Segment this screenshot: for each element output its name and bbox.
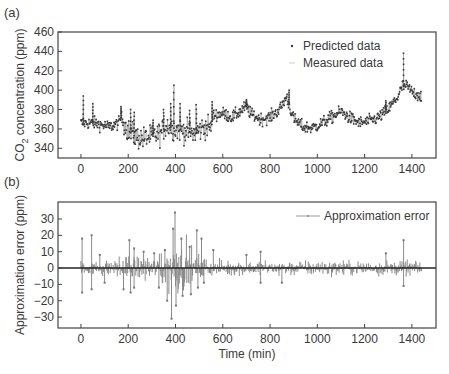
predicted-point	[225, 115, 227, 117]
predicted-point	[130, 132, 132, 134]
predicted-point	[179, 116, 181, 118]
predicted-point	[347, 121, 349, 123]
predicted-point	[170, 115, 172, 117]
predicted-point	[170, 129, 172, 131]
predicted-point	[390, 106, 392, 108]
predicted-point	[273, 117, 275, 119]
error-peak-marker	[164, 249, 166, 251]
predicted-point	[335, 116, 337, 118]
predicted-point	[159, 125, 161, 127]
predicted-point	[121, 115, 123, 117]
predicted-point	[408, 86, 410, 88]
predicted-point	[233, 109, 235, 111]
predicted-point	[165, 135, 167, 137]
predicted-point	[414, 88, 416, 90]
predicted-point	[148, 135, 150, 137]
predicted-point	[259, 119, 261, 121]
predicted-point	[109, 122, 111, 124]
predicted-point	[155, 140, 157, 142]
predicted-point	[135, 129, 137, 131]
y-tick-label: −30	[34, 310, 55, 324]
predicted-point	[417, 100, 419, 102]
predicted-point	[301, 118, 303, 120]
predicted-point	[286, 94, 288, 96]
x-tick-label: 1200	[351, 332, 378, 346]
predicted-point	[361, 124, 363, 126]
predicted-point	[87, 123, 89, 125]
predicted-point	[207, 124, 209, 126]
error-peak-marker	[133, 247, 135, 249]
predicted-point	[121, 122, 123, 124]
predicted-point	[272, 111, 274, 113]
predicted-point	[83, 120, 85, 122]
predicted-point	[173, 85, 175, 87]
predicted-point	[206, 135, 208, 137]
predicted-point	[279, 104, 281, 106]
error-peak-marker	[104, 282, 106, 284]
predicted-point	[394, 97, 396, 99]
x-tick-label: 400	[165, 162, 185, 176]
predicted-point	[278, 109, 280, 111]
predicted-point	[130, 113, 132, 115]
predicted-point	[179, 139, 181, 141]
predicted-point	[302, 129, 304, 131]
predicted-point	[116, 119, 118, 121]
predicted-point	[398, 93, 400, 95]
predicted-point	[247, 104, 249, 106]
predicted-point	[128, 120, 130, 122]
predicted-point	[92, 116, 94, 118]
error-peak-marker	[171, 318, 173, 320]
predicted-point	[139, 144, 141, 146]
predicted-point	[178, 125, 180, 127]
predicted-point	[99, 127, 101, 129]
predicted-point	[122, 125, 124, 127]
predicted-point	[137, 140, 139, 142]
predicted-point	[240, 108, 242, 110]
predicted-point	[327, 121, 329, 123]
predicted-point	[116, 121, 118, 123]
predicted-point	[191, 128, 193, 130]
predicted-point	[159, 147, 161, 149]
predicted-point	[288, 101, 290, 103]
predicted-point	[196, 109, 198, 111]
predicted-point	[112, 129, 114, 131]
predicted-point	[251, 108, 253, 110]
predicted-point	[92, 103, 94, 105]
predicted-point	[204, 124, 206, 126]
predicted-point	[209, 127, 211, 129]
predicted-point	[196, 122, 198, 124]
y-tick-label: 340	[34, 141, 54, 155]
error-peak-marker	[403, 239, 405, 241]
predicted-point	[140, 130, 142, 132]
predicted-point	[133, 116, 135, 118]
predicted-point	[330, 118, 332, 120]
predicted-point	[163, 115, 165, 117]
predicted-point	[238, 112, 240, 114]
predicted-point	[374, 115, 376, 117]
predicted-point	[133, 123, 135, 125]
predicted-point	[350, 122, 352, 124]
predicted-point	[292, 111, 294, 113]
predicted-point	[133, 119, 135, 121]
predicted-point	[253, 110, 255, 112]
predicted-point	[210, 122, 212, 124]
predicted-point	[205, 125, 207, 127]
predicted-point	[254, 119, 256, 121]
predicted-point	[120, 109, 122, 111]
predicted-point	[132, 121, 134, 123]
predicted-point	[94, 115, 96, 117]
predicted-point	[183, 145, 185, 147]
predicted-point	[154, 128, 156, 130]
predicted-point	[244, 110, 246, 112]
predicted-point	[319, 123, 321, 125]
predicted-point	[318, 127, 320, 129]
x-axis-label: Time (min)	[219, 347, 276, 361]
predicted-point	[127, 125, 129, 127]
predicted-point	[189, 110, 191, 112]
predicted-point	[323, 115, 325, 117]
predicted-point	[185, 130, 187, 132]
error-peak-marker	[190, 293, 192, 295]
predicted-point	[149, 141, 151, 143]
predicted-point	[278, 113, 280, 115]
predicted-point	[173, 140, 175, 142]
